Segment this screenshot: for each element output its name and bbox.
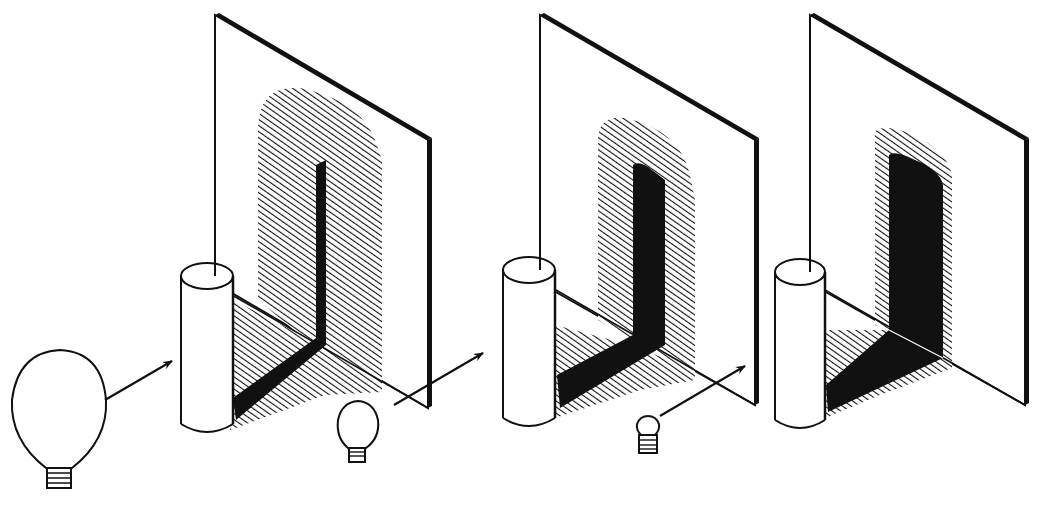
panel-1 bbox=[12, 13, 432, 488]
shadow-diagram bbox=[0, 0, 1039, 517]
medium-bulb-icon bbox=[338, 401, 379, 462]
light-ray-arrow-2 bbox=[394, 353, 483, 405]
large-bulb-icon bbox=[12, 350, 106, 488]
tiny-bulb-icon bbox=[637, 416, 659, 453]
cylinder-panel-2 bbox=[503, 257, 555, 426]
light-ray-arrow-1 bbox=[105, 361, 172, 400]
cylinder-panel-3 bbox=[775, 259, 825, 428]
panel-3 bbox=[637, 13, 1029, 453]
cylinder-panel-1 bbox=[181, 263, 233, 432]
